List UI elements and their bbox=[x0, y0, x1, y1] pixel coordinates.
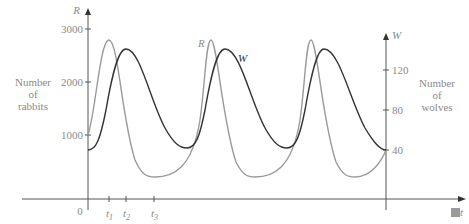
end-mark-icon bbox=[451, 208, 460, 217]
svg-text:rabbits: rabbits bbox=[18, 100, 48, 112]
rabbits-caption: Number of rabbits bbox=[15, 76, 51, 112]
tick-40: 40 bbox=[392, 144, 404, 156]
svg-text:Number: Number bbox=[15, 76, 51, 88]
wolves-caption: Number of wolves bbox=[419, 77, 455, 113]
wolf-curve bbox=[88, 49, 386, 150]
right-axis-title: W bbox=[392, 29, 402, 41]
t3-label: t3 bbox=[151, 207, 158, 222]
tick-3000: 3000 bbox=[61, 23, 84, 35]
svg-text:of: of bbox=[432, 89, 442, 101]
svg-text:Number: Number bbox=[419, 77, 455, 89]
left-axis-title: R bbox=[72, 4, 80, 16]
predator-prey-chart: 3000 2000 1000 120 80 40 0 t1 t2 t3 R W … bbox=[0, 0, 469, 224]
tick-2000: 2000 bbox=[61, 76, 84, 88]
left-axis-arrow-icon bbox=[85, 8, 91, 15]
tick-80: 80 bbox=[392, 104, 404, 116]
tick-1000: 1000 bbox=[61, 129, 84, 141]
svg-text:wolves: wolves bbox=[421, 101, 452, 113]
svg-text:of: of bbox=[28, 88, 38, 100]
origin-label: 0 bbox=[77, 205, 83, 217]
right-axis-arrow-icon bbox=[383, 33, 389, 40]
x-axis-title: t bbox=[460, 206, 464, 218]
curve-label-w: W bbox=[238, 52, 248, 64]
t2-label: t2 bbox=[123, 207, 130, 222]
t1-label: t1 bbox=[106, 207, 113, 222]
x-axis-arrow-icon bbox=[458, 196, 466, 202]
tick-120: 120 bbox=[392, 64, 409, 76]
curve-label-r: R bbox=[197, 37, 205, 49]
